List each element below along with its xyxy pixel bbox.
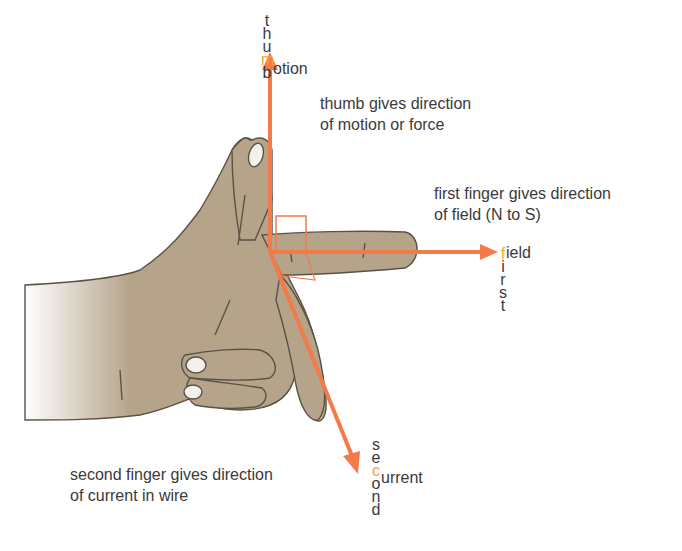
first-finger-description: first finger gives direction of field (N…	[434, 183, 611, 225]
current-label: urrent	[381, 467, 423, 488]
thumb-vertical-word: t h u m b	[261, 14, 273, 79]
motion-label: otion	[273, 58, 308, 79]
thumb-description: thumb gives direction of motion or force	[320, 93, 471, 135]
field-label: ield	[506, 242, 531, 263]
second-finger-description: second finger gives direction of current…	[70, 464, 273, 506]
hand-illustration	[25, 138, 417, 421]
